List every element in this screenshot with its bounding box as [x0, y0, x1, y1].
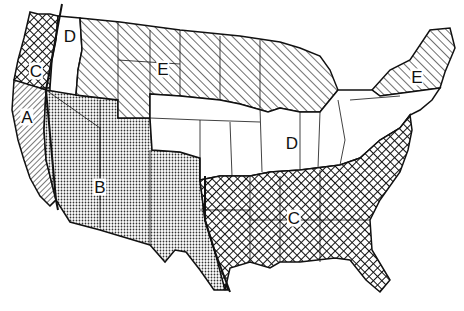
- region-label: C: [29, 63, 43, 80]
- region-label: D: [285, 135, 299, 152]
- region-label: A: [20, 109, 33, 126]
- region-label: E: [156, 61, 169, 78]
- map-canvas: [0, 0, 464, 311]
- region-label: E: [410, 69, 423, 86]
- region-label: C: [287, 210, 301, 227]
- region-label: D: [63, 28, 77, 45]
- region-label: B: [93, 179, 106, 196]
- us-zone-map: D C A E E D B C: [0, 0, 464, 311]
